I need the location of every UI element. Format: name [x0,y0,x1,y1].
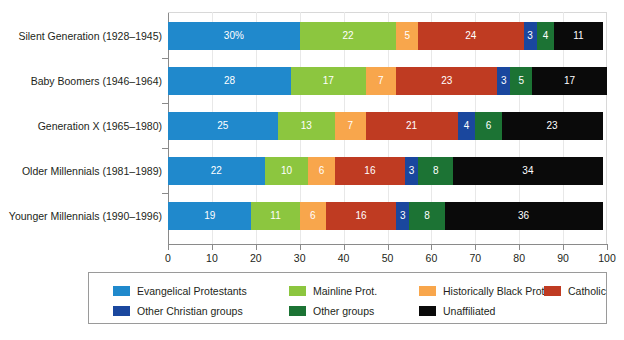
bar-segment: 10 [265,157,309,185]
x-axis-tick-mark [388,245,389,250]
bar-segment: 8 [409,202,444,230]
bar-segment: 4 [537,22,555,50]
legend-label: Catholic [568,286,606,297]
bar-segment-label: 3 [501,76,507,86]
bar-segment: 36 [445,202,603,230]
x-axis-tick-label: 80 [513,252,525,264]
bar-segment-label: 16 [364,166,375,176]
x-axis-tick-label: 90 [557,252,569,264]
bar-row: 25137214623 [168,112,607,140]
bar-segment: 3 [524,22,537,50]
bar-segment-label: 22 [342,31,353,41]
bar-segment-label: 8 [433,166,439,176]
legend-item[interactable]: Evangelical Protestants [113,286,247,297]
legend-swatch [113,306,130,316]
x-axis-tick-mark [256,245,257,250]
bar-segment: 3 [497,67,510,95]
bar-segment-label: 11 [270,211,280,221]
x-axis-tick-mark [431,245,432,250]
bar-segment: 23 [502,112,603,140]
legend-swatch [289,306,306,316]
category-label: Silent Generation (1928–1945) [0,30,162,42]
bar-segment: 8 [418,157,453,185]
bar-segment-label: 17 [564,76,575,86]
legend-item[interactable]: Historically Black Prot. [419,286,547,297]
legend-swatch [113,286,130,296]
legend-label: Evangelical Protestants [137,286,247,297]
legend-label: Unaffiliated [443,306,495,317]
bar-segment-label: 17 [323,76,334,86]
x-axis-tick-mark [475,245,476,250]
x-axis-tick-mark [300,245,301,250]
legend-item[interactable]: Other groups [289,306,374,317]
bar-segment-label: 16 [356,211,367,221]
bar-segment-label: 3 [400,211,406,221]
legend-swatch [289,286,306,296]
bar-segment: 6 [300,202,326,230]
bar-segment-label: 23 [441,76,452,86]
bar-segment-label: 5 [404,31,410,41]
bar-segment: 11 [554,22,602,50]
bar-segment-label: 19 [204,211,215,221]
legend: Evangelical ProtestantsMainline Prot.His… [88,272,607,324]
bar-segment: 4 [458,112,476,140]
bar-segment: 3 [396,202,409,230]
legend-item[interactable]: Unaffiliated [419,306,495,317]
legend-label: Historically Black Prot. [443,286,547,297]
x-axis-tick-mark [563,245,564,250]
legend-label: Other groups [313,306,374,317]
bar-segment: 5 [396,22,418,50]
bar-row: 22106163834 [168,157,607,185]
bar-segment: 16 [326,202,396,230]
bar-segment-label: 34 [522,166,533,176]
bar-segment-label: 6 [486,121,492,131]
bar-segment: 7 [366,67,397,95]
bar-segment: 11 [251,202,299,230]
bar-segment-label: 6 [310,211,316,221]
x-axis-tick-label: 10 [206,252,218,264]
bar-segment: 22 [168,157,265,185]
bar-segment-label: 5 [519,76,525,86]
bar-segment-label: 23 [547,121,558,131]
category-label: Baby Boomers (1946–1964) [0,75,162,87]
x-axis-tick-label: 70 [469,252,481,264]
bar-segment-label: 22 [211,166,222,176]
bar-segment-label: 36 [518,211,529,221]
bar-segment-label: 21 [406,121,417,131]
legend-item[interactable]: Catholic [544,286,606,297]
legend-swatch [419,286,436,296]
x-axis-tick-label: 40 [338,252,350,264]
bar-segment: 34 [453,157,602,185]
legend-item[interactable]: Mainline Prot. [289,286,377,297]
bar-segment: 21 [366,112,458,140]
bar-segment: 22 [300,22,397,50]
x-axis-tick-label: 30 [294,252,306,264]
bar-segment: 25 [168,112,278,140]
bar-segment-label: 3 [527,31,533,41]
bar-segment-label: 10 [281,166,292,176]
x-axis-tick-label: 50 [382,252,394,264]
category-label: Younger Millennials (1990–1996) [0,210,162,222]
bar-segment-label: 24 [465,31,476,41]
legend-swatch [544,286,561,296]
bar-segment-label: 30% [224,31,244,41]
bar-segment-label: 8 [424,211,430,221]
category-label: Generation X (1965–1980) [0,120,162,132]
legend-label: Mainline Prot. [313,286,377,297]
bar-segment-label: 11 [573,31,583,41]
stacked-bar-chart: Silent Generation (1928–1945)Baby Boomer… [0,0,624,340]
legend-item[interactable]: Other Christian groups [113,306,243,317]
bar-segment-label: 25 [217,121,228,131]
bar-segment-label: 4 [464,121,470,131]
bar-segment: 7 [335,112,366,140]
x-axis-tick-label: 100 [598,252,616,264]
x-axis-tick-mark [212,245,213,250]
bar-segment: 5 [510,67,532,95]
category-label: Older Millennials (1981–1989) [0,165,162,177]
bar-segment: 17 [532,67,607,95]
x-axis-tick-label: 0 [165,252,171,264]
bar-segment: 23 [396,67,497,95]
bar-segment-label: 6 [319,166,325,176]
bar-segment: 24 [418,22,523,50]
bar-segment-label: 13 [301,121,312,131]
